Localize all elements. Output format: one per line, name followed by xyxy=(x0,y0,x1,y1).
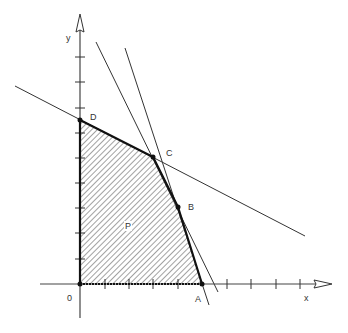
x-axis-arrow-icon xyxy=(314,280,332,288)
y-axis-arrow-icon xyxy=(76,14,84,32)
lp-diagram: y x 0 A B C D P xyxy=(0,0,348,333)
vertex-c-label: C xyxy=(166,148,173,158)
y-axis-label: y xyxy=(66,33,71,43)
diagram-canvas xyxy=(0,0,348,333)
vertex-a-label: A xyxy=(195,294,201,304)
region-label: P xyxy=(124,221,132,231)
vertex-d-label: D xyxy=(90,112,97,122)
vertex-c xyxy=(151,155,156,160)
vertex-a xyxy=(200,282,205,287)
vertex-b-label: B xyxy=(188,202,194,212)
x-axis-label: x xyxy=(304,293,309,303)
vertex-o xyxy=(78,282,83,287)
vertex-d xyxy=(78,118,83,123)
origin-label: 0 xyxy=(67,293,72,303)
vertex-b xyxy=(176,205,181,210)
feasible-region xyxy=(80,120,202,284)
